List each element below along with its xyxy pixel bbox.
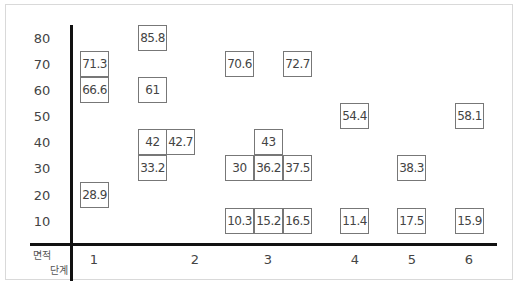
x-tick-label: 4 [345,252,365,267]
data-value-box: 33.2 [138,155,167,181]
x-tick-label: 3 [258,252,278,267]
y-tick-label: 30 [22,161,62,176]
x-tick-label: 5 [402,252,422,267]
data-value-box: 72.7 [283,51,312,77]
x-tick-label: 2 [185,252,205,267]
y-tick-label: 50 [22,109,62,124]
data-value-box: 15.2 [254,208,283,234]
data-value-box: 42 [138,129,167,155]
y-tick-label: 80 [22,31,62,46]
data-value-box: 66.6 [80,77,109,103]
data-value-box: 54.4 [340,103,369,129]
data-value-box: 11.4 [340,208,369,234]
x-tick-label: 1 [84,252,104,267]
x-axis-title: 단계 [50,262,68,277]
data-value-box: 85.8 [138,25,167,51]
y-axis-title: 면적 [33,247,51,262]
data-value-box: 42.7 [166,129,195,155]
data-value-box: 16.5 [283,208,312,234]
data-value-box: 71.3 [80,51,109,77]
y-tick-label: 40 [22,135,62,150]
data-value-box: 58.1 [455,103,484,129]
x-tick-label: 6 [459,252,479,267]
data-value-box: 70.6 [225,51,254,77]
y-tick-label: 10 [22,214,62,229]
data-value-box: 43 [254,129,283,155]
data-value-box: 30 [225,155,254,181]
y-tick-label: 70 [22,57,62,72]
data-value-box: 61 [138,77,167,103]
x-axis-line [30,243,497,246]
y-tick-label: 60 [22,83,62,98]
data-value-box: 38.3 [397,155,426,181]
data-value-box: 37.5 [283,155,312,181]
data-value-box: 15.9 [455,208,484,234]
data-value-box: 10.3 [225,208,254,234]
y-tick-label: 20 [22,188,62,203]
data-value-box: 17.5 [397,208,426,234]
data-value-box: 28.9 [80,182,109,208]
data-value-box: 36.2 [254,155,283,181]
